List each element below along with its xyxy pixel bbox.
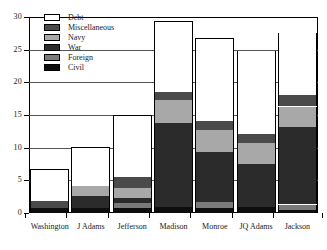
y-axis-label-20: 20 <box>0 78 22 86</box>
stacked-bar-chart: 051015202530 WashingtonJ AdamsJeffersonM… <box>0 0 327 250</box>
y-axis-tick-30 <box>24 17 29 18</box>
legend-label-foreign: Foreign <box>68 53 93 62</box>
legend-item-navy: Navy <box>44 32 148 42</box>
legend-item-war: War <box>44 42 148 52</box>
legend-label-debt: Debt <box>68 13 84 22</box>
bar-segment-war <box>278 127 317 204</box>
x-axis-tick-7 <box>322 213 323 218</box>
x-axis-tick-5 <box>232 213 233 218</box>
legend-swatch-miscellaneous <box>44 24 60 31</box>
bar-segment-miscellaneous <box>278 95 317 106</box>
bar-segment-debt <box>154 21 193 92</box>
bar-jq-adams <box>237 17 276 213</box>
legend-swatch-civil <box>44 64 60 71</box>
y-axis-tick-20 <box>24 82 29 83</box>
chart-legend: DebtMiscellaneousNavyWarForeignCivil <box>44 12 148 72</box>
legend-item-foreign: Foreign <box>44 52 148 62</box>
bar-segment-miscellaneous <box>30 201 69 209</box>
x-axis-tick-1 <box>66 213 67 218</box>
y-axis-label-10: 10 <box>0 144 22 152</box>
legend-label-navy: Navy <box>68 33 85 42</box>
y-axis-tick-10 <box>24 148 29 149</box>
y-axis-tick-15 <box>24 115 29 116</box>
bar-segment-navy <box>237 143 276 164</box>
y-axis-tick-5 <box>24 180 29 181</box>
bar-segment-debt <box>71 147 110 186</box>
bar-segment-miscellaneous <box>195 121 234 130</box>
bar-monroe <box>195 17 234 213</box>
bar-segment-debt <box>237 51 276 134</box>
legend-item-miscellaneous: Miscellaneous <box>44 22 148 32</box>
bar-segment-war <box>154 123 193 207</box>
bar-segment-navy <box>195 130 234 152</box>
bar-segment-civil <box>113 208 152 213</box>
bar-segment-navy <box>278 107 317 128</box>
x-axis-tick-6 <box>273 213 274 218</box>
legend-swatch-debt <box>44 14 60 21</box>
bar-segment-miscellaneous <box>237 134 276 143</box>
bar-segment-debt <box>113 115 152 177</box>
legend-label-civil: Civil <box>68 63 84 72</box>
x-axis-tick-0 <box>25 213 26 218</box>
x-axis-tick-2 <box>108 213 109 218</box>
x-axis-tick-4 <box>190 213 191 218</box>
y-axis-label-25: 25 <box>0 46 22 54</box>
legend-label-miscellaneous: Miscellaneous <box>68 23 114 32</box>
y-axis-label-30: 30 <box>0 13 22 21</box>
y-axis-tick-25 <box>24 50 29 51</box>
bar-segment-debt <box>195 38 234 121</box>
bar-segment-civil <box>237 207 276 213</box>
bar-segment-miscellaneous <box>113 177 152 187</box>
legend-swatch-foreign <box>44 54 60 61</box>
x-axis-tick-3 <box>149 213 150 218</box>
bar-segment-civil <box>195 208 234 213</box>
bar-segment-foreign <box>195 202 234 208</box>
bar-segment-civil <box>154 207 193 213</box>
y-axis-label-5: 5 <box>0 176 22 184</box>
bar-segment-civil <box>30 208 69 213</box>
legend-swatch-war <box>44 44 60 51</box>
bar-segment-debt <box>30 169 69 200</box>
bar-jackson <box>278 17 317 213</box>
bar-segment-navy <box>71 186 110 196</box>
bar-segment-civil <box>71 208 110 213</box>
legend-item-civil: Civil <box>44 62 148 72</box>
bar-segment-miscellaneous <box>154 92 193 100</box>
bar-segment-war <box>113 198 152 203</box>
legend-item-debt: Debt <box>44 12 148 22</box>
legend-label-war: War <box>68 43 81 52</box>
bar-segment-foreign <box>113 203 152 208</box>
bar-segment-war <box>195 152 234 202</box>
bar-segment-foreign <box>278 205 317 210</box>
bar-segment-civil <box>278 210 317 213</box>
y-axis-label-0: 0 <box>0 209 22 217</box>
bar-segment-navy <box>113 188 152 198</box>
y-axis-label-15: 15 <box>0 111 22 119</box>
bar-madison <box>154 17 193 213</box>
x-axis-label-jackson: Jackson <box>267 222 327 232</box>
bar-segment-navy <box>154 100 193 123</box>
bar-segment-war <box>71 196 110 208</box>
legend-swatch-navy <box>44 34 60 41</box>
bar-segment-war <box>237 164 276 207</box>
bar-segment-debt <box>278 33 317 95</box>
